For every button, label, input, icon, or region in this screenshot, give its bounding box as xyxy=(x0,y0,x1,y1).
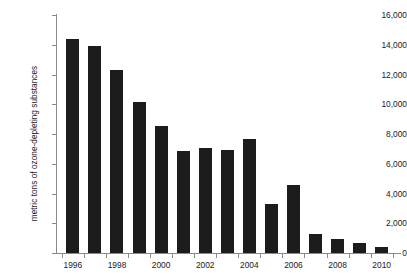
bar xyxy=(331,239,344,253)
bar xyxy=(243,139,256,253)
x-axis-tick-label: 2002 xyxy=(196,260,215,270)
bar xyxy=(177,151,190,253)
bar xyxy=(221,150,234,253)
bar xyxy=(287,185,300,253)
x-axis-tick-mark xyxy=(172,254,173,258)
x-axis-tick-label: 2000 xyxy=(152,260,171,270)
bar xyxy=(309,234,322,253)
x-axis-tick-mark xyxy=(216,254,217,258)
x-axis-tick-mark xyxy=(393,254,394,258)
x-axis-tick-label: 2004 xyxy=(240,260,259,270)
bar xyxy=(110,70,123,253)
x-axis-tick-label: 2006 xyxy=(284,260,303,270)
x-axis-tick-label: 1998 xyxy=(108,260,127,270)
plot-area xyxy=(57,15,400,253)
x-axis-tick-mark xyxy=(106,254,107,258)
y-axis-title: metric tons of ozone-depleting substance… xyxy=(30,29,39,259)
x-axis-tick-mark xyxy=(260,254,261,258)
bar xyxy=(265,204,278,253)
x-axis-tick-mark xyxy=(84,254,85,258)
x-axis-tick-mark xyxy=(349,254,350,258)
x-axis-tick-label: 2008 xyxy=(328,260,347,270)
x-axis-tick-mark xyxy=(238,254,239,258)
x-axis-tick-mark xyxy=(150,254,151,258)
x-axis-tick-label: 1996 xyxy=(64,260,83,270)
x-axis-tick-mark xyxy=(128,254,129,258)
x-axis-tick-mark xyxy=(304,254,305,258)
bar xyxy=(353,243,366,253)
bar xyxy=(133,102,146,253)
bar-chart: metric tons of ozone-depleting substance… xyxy=(0,0,407,274)
x-axis-tick-mark xyxy=(371,254,372,258)
bar xyxy=(88,46,101,254)
x-axis-tick-mark xyxy=(327,254,328,258)
bar xyxy=(66,39,79,253)
x-axis-tick-mark xyxy=(62,254,63,258)
bar xyxy=(155,126,168,253)
x-axis-tick-mark xyxy=(194,254,195,258)
bar xyxy=(199,148,212,253)
bar xyxy=(375,247,388,253)
x-axis-tick-mark xyxy=(282,254,283,258)
x-axis-tick-label: 2010 xyxy=(372,260,391,270)
